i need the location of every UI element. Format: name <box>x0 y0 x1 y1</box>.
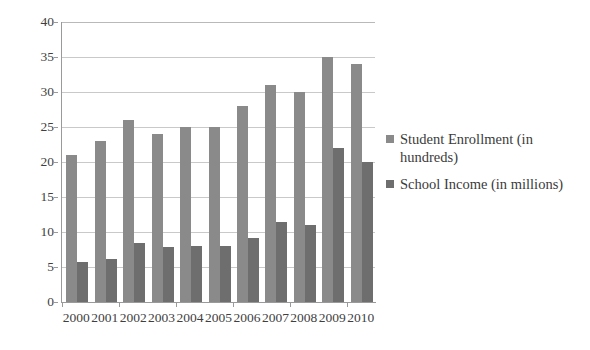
bar-group-2005 <box>209 22 231 302</box>
y-tick-label-35: 35 <box>12 50 54 64</box>
y-tick-mark-0 <box>54 302 58 303</box>
bar-2005-series-1 <box>220 246 231 302</box>
bar-2004-series-1 <box>191 246 202 302</box>
bar-2001-series-0 <box>95 141 106 302</box>
bar-2000-series-0 <box>66 155 77 302</box>
bar-group-2000 <box>66 22 88 302</box>
bar-2003-series-1 <box>163 247 174 302</box>
x-tick-mark-4 <box>176 302 177 307</box>
x-tick-mark-10 <box>347 302 348 307</box>
bar-group-2006 <box>237 22 259 302</box>
legend-swatch-icon <box>386 135 394 143</box>
bar-group-2003 <box>152 22 174 302</box>
bar-group-2004 <box>180 22 202 302</box>
bar-group-2009 <box>322 22 344 302</box>
y-tick-label-5: 5 <box>12 260 54 274</box>
y-tick-label-10: 10 <box>12 225 54 239</box>
y-tick-mark-35 <box>54 57 58 58</box>
bar-2002-series-1 <box>134 243 145 302</box>
bar-2008-series-0 <box>294 92 305 302</box>
y-axis: 0510152025303540 <box>8 22 54 302</box>
y-tick-mark-30 <box>54 92 58 93</box>
bar-2007-series-1 <box>276 222 287 303</box>
bar-2009-series-1 <box>333 148 344 302</box>
bar-2002-series-0 <box>123 120 134 302</box>
legend-item-1[interactable]: School Income (in millions) <box>386 175 582 193</box>
bar-group-2008 <box>294 22 316 302</box>
plot-area <box>62 22 375 302</box>
y-tick-mark-20 <box>54 162 58 163</box>
bar-2000-series-1 <box>77 262 88 302</box>
y-tick-mark-25 <box>54 127 58 128</box>
x-tick-mark-2 <box>119 302 120 307</box>
legend-item-0[interactable]: Student Enrollment (in hundreds) <box>386 130 582 166</box>
x-tick-mark-0 <box>62 302 63 307</box>
bar-group-2002 <box>123 22 145 302</box>
y-tick-label-15: 15 <box>12 190 54 204</box>
bar-2008-series-1 <box>305 225 316 302</box>
y-tick-label-40: 40 <box>12 15 54 29</box>
bar-2006-series-0 <box>237 106 248 302</box>
y-tick-label-0: 0 <box>12 295 54 309</box>
bar-2007-series-0 <box>265 85 276 302</box>
legend: Student Enrollment (in hundreds)School I… <box>386 130 582 202</box>
legend-label: Student Enrollment (in hundreds) <box>400 130 570 166</box>
y-tick-label-25: 25 <box>12 120 54 134</box>
x-tick-mark-8 <box>290 302 291 307</box>
x-axis: 2000200120022003200420052006200720082009… <box>62 310 375 334</box>
bar-group-2007 <box>265 22 287 302</box>
y-tick-label-30: 30 <box>12 85 54 99</box>
legend-label: School Income (in millions) <box>400 175 563 193</box>
bar-2009-series-0 <box>322 57 333 302</box>
bar-group-2010 <box>351 22 373 302</box>
y-tick-mark-40 <box>54 22 58 23</box>
bar-2004-series-0 <box>180 127 191 302</box>
bar-chart: 0510152025303540 20002001200220032004200… <box>0 0 590 350</box>
bar-group-2001 <box>95 22 117 302</box>
x-tick-label-2010: 2010 <box>344 310 378 326</box>
y-tick-mark-10 <box>54 232 58 233</box>
bar-2005-series-0 <box>209 127 220 302</box>
y-tick-mark-15 <box>54 197 58 198</box>
bar-2006-series-1 <box>248 238 259 302</box>
x-axis-line <box>61 302 376 303</box>
x-tick-mark-6 <box>233 302 234 307</box>
bar-2010-series-1 <box>362 162 373 302</box>
y-tick-mark-5 <box>54 267 58 268</box>
bar-2010-series-0 <box>351 64 362 302</box>
bar-2001-series-1 <box>106 259 117 302</box>
legend-swatch-icon <box>386 180 394 188</box>
y-tick-label-20: 20 <box>12 155 54 169</box>
bar-2003-series-0 <box>152 134 163 302</box>
